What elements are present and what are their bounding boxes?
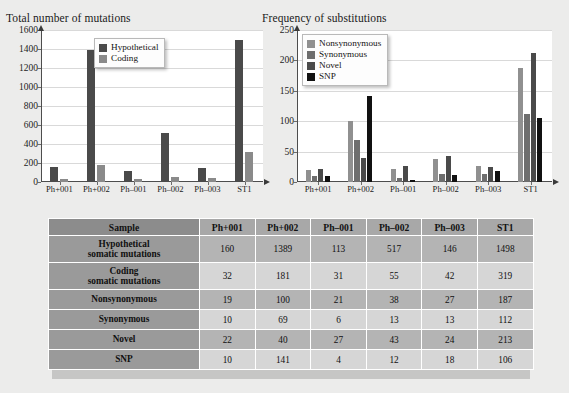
bar: [198, 168, 206, 182]
x-axis-tick-label: Ph–003: [467, 184, 510, 194]
table-header-row: SamplePh+001Ph+002Ph–001Ph–002Ph–003ST1: [49, 219, 534, 236]
y-axis-tick-label: 0: [6, 177, 38, 187]
legend-item: Novel: [307, 60, 381, 71]
bar: [433, 159, 438, 182]
bar: [531, 53, 536, 183]
table-header-sample: Sample: [49, 219, 200, 236]
table-row-label: Codingsomatic mutations: [49, 263, 200, 290]
legend-item: Coding: [99, 53, 158, 64]
x-axis-tick-mark: [361, 182, 362, 185]
x-axis-tick-mark: [97, 182, 98, 185]
bar: [537, 118, 542, 182]
gridline: [41, 68, 263, 69]
bar: [60, 179, 68, 182]
x-axis-tick-label: ST1: [510, 184, 553, 194]
table-cell: 146: [422, 236, 478, 263]
x-axis-tick-label: Ph–001: [382, 184, 425, 194]
y-axis-tick-label: 150: [262, 86, 294, 96]
y-axis: [297, 30, 298, 182]
bar: [171, 177, 179, 182]
bar: [410, 180, 415, 182]
x-axis-tick-mark: [446, 182, 447, 185]
chart-legend: NonsynonymousSynonymousNovelSNP: [302, 34, 388, 86]
table-row-label-line: Hypothetical: [49, 239, 199, 250]
x-axis-tick-label: Ph–003: [189, 184, 226, 194]
bar: [397, 178, 402, 182]
legend-item-label: Nonsynonymous: [319, 38, 381, 49]
y-axis-tick-label: 600: [6, 120, 38, 130]
table-cell: 32: [200, 263, 256, 290]
bar: [312, 176, 317, 182]
y-axis-tick-mark: [293, 121, 297, 122]
table-cell: 27: [311, 330, 367, 350]
legend-swatch-icon: [307, 51, 315, 59]
table-row-label-line: Nonsynonymous: [49, 294, 199, 305]
table-cell: 10: [200, 310, 256, 330]
table-cell: 13: [422, 310, 478, 330]
x-axis: [297, 181, 552, 182]
legend-item-label: SNP: [319, 71, 336, 82]
table-cell: 21: [311, 290, 367, 310]
x-axis-tick-mark: [60, 182, 61, 185]
bar: [134, 179, 142, 182]
table-cell: 100: [255, 290, 311, 310]
bar: [208, 178, 216, 182]
legend-swatch-icon: [99, 44, 107, 52]
bar: [446, 156, 451, 182]
table-row: Hypotheticalsomatic mutations16013891135…: [49, 236, 534, 263]
legend-swatch-icon: [307, 73, 315, 81]
bar: [403, 166, 408, 182]
bar: [354, 140, 359, 182]
x-axis-tick-label: Ph–002: [425, 184, 468, 194]
gridline: [41, 106, 263, 107]
bar: [87, 50, 95, 182]
table-row: Novel2240274324213: [49, 330, 534, 350]
x-axis-tick-label: Ph+002: [340, 184, 383, 194]
table-header-cell: Ph+001: [200, 219, 256, 236]
table-cell: 112: [477, 310, 533, 330]
y-axis-tick-mark: [37, 49, 41, 50]
table-cell: 6: [311, 310, 367, 330]
x-axis-tick-mark: [208, 182, 209, 185]
bar: [452, 175, 457, 182]
x-axis-tick-mark: [403, 182, 404, 185]
table-cell: 55: [366, 263, 422, 290]
table-cell: 319: [477, 263, 533, 290]
x-axis-tick-label: ST1: [226, 184, 263, 194]
y-axis-tick-label: 1000: [6, 82, 38, 92]
table-cell: 22: [200, 330, 256, 350]
table-header-cell: Ph+002: [255, 219, 311, 236]
bar: [161, 133, 169, 182]
x-axis-tick-mark: [245, 182, 246, 185]
legend-item-label: Novel: [319, 60, 341, 71]
chart-total-mutations: Total number of mutations 02004006008001…: [6, 12, 268, 202]
table-cell: 141: [255, 350, 311, 370]
x-axis-tick-mark: [488, 182, 489, 185]
table-head: SamplePh+001Ph+002Ph–001Ph–002Ph–003ST1: [49, 219, 534, 236]
bar: [391, 169, 396, 182]
bar: [235, 40, 243, 182]
y-axis-tick-label: 200: [6, 158, 38, 168]
y-axis-tick-label: 0: [262, 177, 294, 187]
table-cell: 40: [255, 330, 311, 350]
y-axis-tick-mark: [37, 106, 41, 107]
x-axis-tick-label: Ph+001: [41, 184, 78, 194]
y-axis-tick-label: 400: [6, 139, 38, 149]
bar: [482, 174, 487, 182]
y-axis-tick-mark: [293, 60, 297, 61]
bar: [367, 96, 372, 182]
table-cell: 187: [477, 290, 533, 310]
x-axis-tick-mark: [171, 182, 172, 185]
gridline: [297, 91, 552, 92]
table-row: SNP1014141218106: [49, 350, 534, 370]
table-header-cell: ST1: [477, 219, 533, 236]
y-axis-tick-mark: [293, 152, 297, 153]
gridline: [41, 125, 263, 126]
table-row-label: Hypotheticalsomatic mutations: [49, 236, 200, 263]
legend-item: Nonsynonymous: [307, 38, 381, 49]
y-axis-tick-label: 50: [262, 147, 294, 157]
y-axis-tick-label: 250: [262, 25, 294, 35]
table-row-label-line: Coding: [49, 266, 199, 277]
table-row-label: Synonymous: [49, 310, 200, 330]
x-axis-tick-label: Ph–001: [115, 184, 152, 194]
